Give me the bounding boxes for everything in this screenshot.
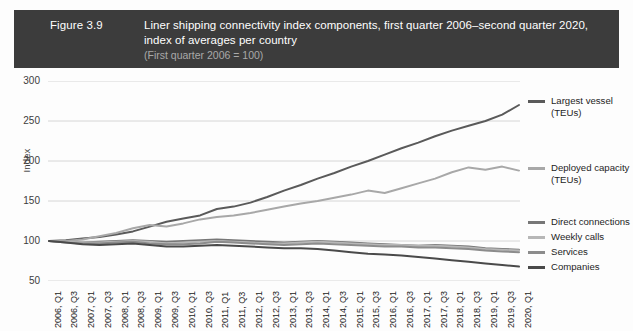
x-axis-tick-label: 2009, Q3 bbox=[170, 291, 180, 328]
x-axis-tick-label: 2010, Q3 bbox=[204, 291, 214, 328]
legend-color-swatch bbox=[528, 266, 545, 269]
x-axis-tick-group: 2006, Q12006, Q32007, Q12007, Q32008, Q1… bbox=[48, 284, 520, 331]
x-axis-tick-label: 2016, Q3 bbox=[405, 291, 415, 328]
legend-color-swatch bbox=[528, 251, 545, 254]
x-axis-tick-label: 2014, Q3 bbox=[338, 291, 348, 328]
x-axis-tick-label: 2008, Q1 bbox=[120, 291, 130, 328]
legend-label: Services bbox=[551, 246, 588, 258]
x-axis-tick-label: 2015, Q3 bbox=[371, 291, 381, 328]
series-line bbox=[49, 167, 519, 241]
figure-container: Figure 3.9 Liner shipping connectivity i… bbox=[0, 0, 633, 331]
x-axis-tick-label: 2008, Q3 bbox=[136, 291, 146, 328]
legend-label: Weekly calls bbox=[551, 231, 604, 243]
y-axis-tick-label: 300 bbox=[6, 76, 40, 86]
legend-label: Largest vessel (TEUs) bbox=[551, 95, 613, 118]
figure-title-line-2: index of averages per country bbox=[144, 33, 614, 48]
x-axis-tick-label: 2015, Q1 bbox=[355, 291, 365, 328]
x-axis-tick-label: 2010, Q1 bbox=[187, 291, 197, 328]
legend-color-swatch bbox=[528, 236, 545, 239]
x-axis-tick-label: 2012, Q1 bbox=[254, 291, 264, 328]
x-axis-tick-label: 2007, Q1 bbox=[86, 291, 96, 328]
x-axis-tick-label: 2012, Q3 bbox=[271, 291, 281, 328]
x-axis-tick-label: 2006, Q3 bbox=[69, 291, 79, 328]
x-axis-tick-label: 2011, Q1 bbox=[220, 292, 230, 328]
x-axis-tick-label: 2013, Q1 bbox=[288, 291, 298, 328]
x-axis-tick-label: 2009, Q1 bbox=[153, 291, 163, 328]
legend-label: Deployed capacity (TEUs) bbox=[551, 162, 629, 185]
y-axis-tick-label: 150 bbox=[6, 196, 40, 206]
x-axis-tick-label: 2006, Q1 bbox=[53, 291, 63, 328]
x-axis-tick-label: 2020, Q1 bbox=[523, 291, 533, 328]
legend-item[interactable]: Largest vessel (TEUs) bbox=[528, 95, 613, 118]
plot-area bbox=[48, 81, 520, 281]
legend-label: Direct connections bbox=[551, 216, 630, 228]
x-axis-tick-label: 2018, Q1 bbox=[455, 291, 465, 328]
legend-item[interactable]: Weekly calls bbox=[528, 231, 604, 243]
legend-label: Companies bbox=[551, 261, 600, 273]
figure-header-banner: Figure 3.9 Liner shipping connectivity i… bbox=[14, 10, 619, 68]
y-axis-tick-label: 50 bbox=[6, 276, 40, 286]
y-axis-tick-label: 100 bbox=[6, 236, 40, 246]
x-axis-tick-label: 2018, Q3 bbox=[472, 291, 482, 328]
x-axis-tick-label: 2017, Q3 bbox=[439, 291, 449, 328]
x-axis-tick-label: 2011, Q3 bbox=[237, 292, 247, 328]
figure-subtitle: (First quarter 2006 = 100) bbox=[144, 47, 614, 62]
x-axis-tick-label: 2014, Q1 bbox=[321, 291, 331, 328]
y-axis-tick-label: 200 bbox=[6, 156, 40, 166]
x-axis-tick-label: 2017, Q1 bbox=[422, 291, 432, 328]
legend-color-swatch bbox=[528, 167, 545, 170]
figure-title-block: Liner shipping connectivity index compon… bbox=[144, 18, 614, 62]
legend-item[interactable]: Direct connections bbox=[528, 216, 630, 228]
y-axis-tick-label: 250 bbox=[6, 116, 40, 126]
legend-color-swatch bbox=[528, 100, 545, 103]
figure-number: Figure 3.9 bbox=[50, 19, 103, 31]
x-axis-tick-label: 2013, Q3 bbox=[304, 291, 314, 328]
x-axis-tick-label: 2019, Q1 bbox=[489, 291, 499, 328]
x-axis-tick-label: 2019, Q3 bbox=[506, 291, 516, 328]
x-axis-tick-label: 2007, Q3 bbox=[103, 291, 113, 328]
x-axis-tick-label: 2016, Q1 bbox=[388, 291, 398, 328]
legend-item[interactable]: Deployed capacity (TEUs) bbox=[528, 162, 629, 185]
legend-item[interactable]: Companies bbox=[528, 261, 600, 273]
line-chart-svg bbox=[48, 81, 520, 281]
legend-item[interactable]: Services bbox=[528, 246, 588, 258]
legend-color-swatch bbox=[528, 221, 545, 224]
figure-title-line-1: Liner shipping connectivity index compon… bbox=[144, 18, 614, 33]
